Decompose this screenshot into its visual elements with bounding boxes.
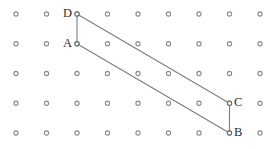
vertex-label-c: C bbox=[234, 96, 242, 109]
vertex-markers-layer bbox=[75, 12, 232, 135]
grid-dot bbox=[105, 131, 109, 135]
grid-dot bbox=[136, 12, 140, 16]
grid-dot bbox=[44, 12, 48, 16]
vertex-label-d: D bbox=[63, 7, 72, 20]
grid-dot bbox=[44, 42, 48, 46]
grid-dot bbox=[136, 42, 140, 46]
grid-dot bbox=[75, 131, 79, 135]
grid-dot bbox=[105, 71, 109, 75]
grid-dot bbox=[258, 42, 262, 46]
vertex-marker-c bbox=[227, 101, 231, 105]
edge-dc bbox=[77, 14, 230, 103]
dot-grid-layer bbox=[14, 12, 262, 135]
vertex-label-a: A bbox=[63, 37, 72, 50]
edge-ab bbox=[77, 44, 230, 133]
grid-dot bbox=[14, 131, 18, 135]
dot-grid-figure: DACB bbox=[0, 0, 280, 149]
grid-dot bbox=[197, 131, 201, 135]
grid-dot bbox=[136, 71, 140, 75]
grid-dot bbox=[14, 71, 18, 75]
grid-dot bbox=[166, 42, 170, 46]
grid-dot bbox=[166, 101, 170, 105]
grid-dot bbox=[258, 131, 262, 135]
grid-dot bbox=[197, 42, 201, 46]
grid-dot bbox=[227, 42, 231, 46]
parallelogram-edges-layer bbox=[77, 14, 230, 133]
vertex-label-b: B bbox=[234, 126, 242, 139]
grid-dot bbox=[197, 71, 201, 75]
grid-dot bbox=[258, 12, 262, 16]
vertex-marker-a bbox=[75, 42, 79, 46]
grid-dot bbox=[166, 71, 170, 75]
grid-dot bbox=[258, 101, 262, 105]
grid-dot bbox=[44, 131, 48, 135]
grid-dot bbox=[136, 131, 140, 135]
grid-dot bbox=[166, 131, 170, 135]
grid-dot bbox=[44, 101, 48, 105]
grid-dot bbox=[105, 42, 109, 46]
grid-dot bbox=[197, 12, 201, 16]
vertex-marker-d bbox=[75, 12, 79, 16]
grid-dot bbox=[227, 12, 231, 16]
grid-dot bbox=[197, 101, 201, 105]
grid-dot bbox=[75, 71, 79, 75]
grid-dot bbox=[14, 101, 18, 105]
grid-dot bbox=[258, 71, 262, 75]
vertex-marker-b bbox=[227, 131, 231, 135]
grid-dot bbox=[105, 12, 109, 16]
grid-dot bbox=[44, 71, 48, 75]
grid-dot bbox=[166, 12, 170, 16]
grid-dot bbox=[14, 12, 18, 16]
grid-dot bbox=[14, 42, 18, 46]
grid-dot bbox=[227, 71, 231, 75]
grid-dot bbox=[105, 101, 109, 105]
grid-dot bbox=[136, 101, 140, 105]
grid-dot bbox=[75, 101, 79, 105]
